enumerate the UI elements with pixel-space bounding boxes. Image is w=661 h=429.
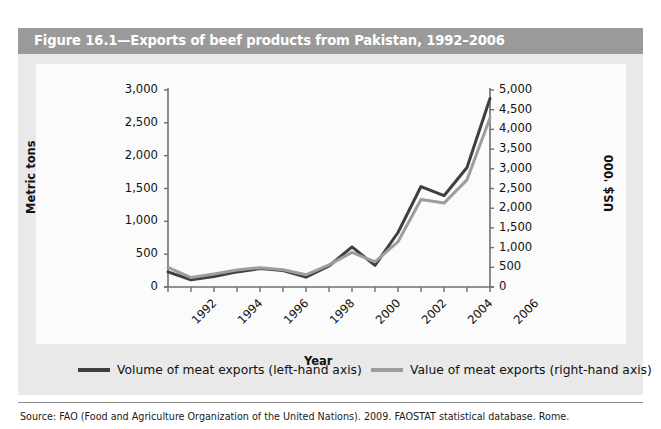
source-divider [18, 402, 643, 403]
y-ticklabel-right: 3,500 [499, 141, 532, 155]
y-ticklabel-left: 3,000 [102, 82, 158, 96]
y-ticklabel-right: 1,500 [499, 220, 532, 234]
legend-label: Value of meat exports (right-hand axis) [410, 363, 652, 377]
y-ticklabel-right: 4,500 [499, 102, 532, 116]
chart-axes [164, 88, 494, 292]
legend-label: Volume of meat exports (left-hand axis) [117, 363, 362, 377]
y-ticklabel-right: 0 [499, 279, 506, 293]
legend-item: Value of meat exports (right-hand axis) [371, 360, 652, 380]
y-axis-title-left: Metric tons [24, 140, 38, 214]
y-ticklabel-left: 1,000 [102, 213, 158, 227]
y-axis-title-right: US$ '000 [602, 155, 616, 212]
figure-title-bar: Figure 16.1—Exports of beef products fro… [18, 28, 643, 54]
legend-item: Volume of meat exports (left-hand axis) [78, 360, 362, 380]
series-line-2 [168, 118, 490, 278]
series-line-1 [168, 99, 490, 280]
y-ticklabel-right: 3,000 [499, 161, 532, 175]
y-ticklabel-left: 500 [102, 246, 158, 260]
y-ticklabel-left: 2,000 [102, 148, 158, 162]
figure-title: Figure 16.1—Exports of beef products fro… [34, 33, 505, 48]
y-ticklabel-right: 500 [499, 259, 521, 273]
chart-legend: Volume of meat exports (left-hand axis)V… [36, 360, 626, 380]
source-note: Source: FAO (Food and Agriculture Organi… [20, 411, 569, 422]
y-ticklabel-left: 0 [102, 279, 158, 293]
y-ticklabel-right: 5,000 [499, 82, 532, 96]
chart-area: Metric tons US$ '000 Year 05001,0001,500… [36, 64, 626, 344]
y-ticklabel-right: 2,000 [499, 200, 532, 214]
y-ticklabel-right: 1,000 [499, 240, 532, 254]
legend-swatch-icon [78, 368, 110, 372]
chart-series [168, 99, 490, 280]
y-ticklabel-left: 2,500 [102, 115, 158, 129]
y-ticklabel-left: 1,500 [102, 181, 158, 195]
figure-page: Figure 16.1—Exports of beef products fro… [0, 0, 661, 429]
y-ticklabel-right: 4,000 [499, 121, 532, 135]
legend-swatch-icon [371, 368, 403, 372]
y-ticklabel-right: 2,500 [499, 181, 532, 195]
